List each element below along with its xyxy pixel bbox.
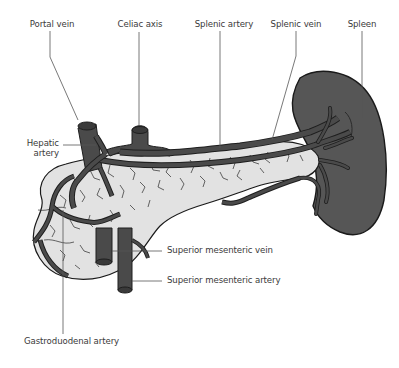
- label-hepatic-line2: artery: [20, 149, 59, 159]
- label-superior-mesenteric-artery: Superior mesenteric artery: [167, 276, 280, 286]
- label-hepatic-artery: Hepatic artery: [20, 139, 59, 159]
- pancreas-vascular-diagram: Portal vein Celiac axis Splenic artery S…: [0, 0, 399, 368]
- diagram-artwork: [0, 0, 399, 368]
- label-gastroduodenal-artery: Gastroduodenal artery: [24, 337, 119, 347]
- label-splenic-artery: Splenic artery: [195, 20, 254, 30]
- label-celiac-axis: Celiac axis: [118, 20, 163, 30]
- label-superior-mesenteric-vein: Superior mesenteric vein: [167, 246, 273, 256]
- label-splenic-vein: Splenic vein: [271, 20, 322, 30]
- label-spleen: Spleen: [348, 20, 377, 30]
- label-portal-vein: Portal vein: [30, 20, 75, 30]
